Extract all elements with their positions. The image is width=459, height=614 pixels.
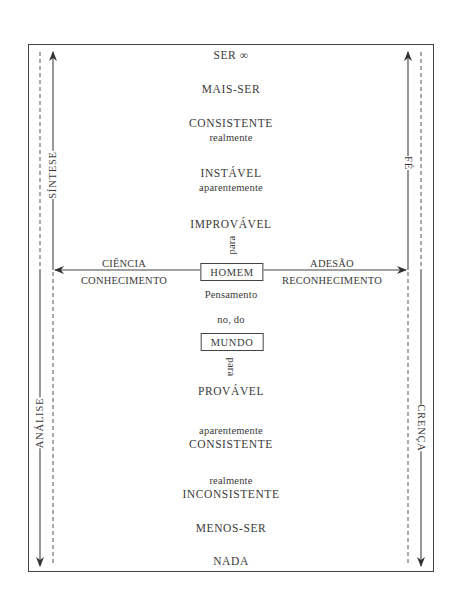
label-menos-ser: MENOS-SER (196, 522, 267, 535)
homem-box: HOMEM (200, 263, 263, 281)
label-consistente-bottom: CONSISTENTE (189, 438, 273, 451)
label-reconhecimento: RECONHECIMENTO (282, 274, 382, 287)
label-pensamento: Pensamento (205, 288, 258, 301)
label-ser: SER ∞ (213, 49, 248, 62)
label-instavel: INSTÁVEL (200, 167, 261, 180)
label-provavel: PROVÁVEL (198, 385, 264, 398)
label-improvavel: IMPROVÁVEL (190, 218, 271, 231)
label-para-down: para (225, 358, 238, 377)
label-aparentemente-bottom: aparentemente (199, 424, 263, 437)
label-conhecimento: CONHECIMENTO (81, 274, 167, 287)
label-sintese: SÍNTESE (44, 151, 62, 199)
label-adesao: ADESÃO (310, 257, 354, 270)
label-ciencia: CIÊNCIA (102, 257, 146, 270)
label-mais-ser: MAIS-SER (202, 83, 260, 96)
label-fe: FÉ (399, 156, 417, 170)
label-realmente-bottom: realmente (209, 474, 252, 487)
label-inconsistente: INCONSISTENTE (182, 488, 279, 501)
label-para-up: para (225, 236, 238, 255)
mundo-box: MUNDO (201, 333, 264, 351)
label-nada: NADA (213, 555, 249, 568)
label-no-do: no, do (217, 313, 244, 326)
label-aparentemente-top: aparentemente (199, 181, 263, 194)
label-crenca: CRENÇA (412, 404, 430, 451)
label-consistente-top: CONSISTENTE (189, 117, 273, 130)
label-analise: ANÁLISE (31, 398, 49, 449)
label-realmente-top: realmente (209, 131, 252, 144)
